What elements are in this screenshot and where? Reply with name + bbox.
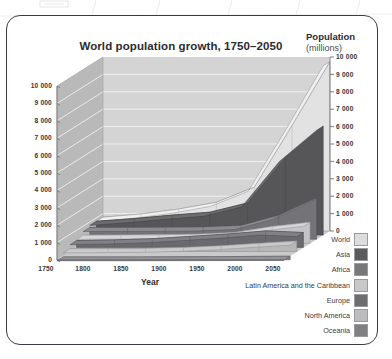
right-axis-tick-8000: 8 000 [336,88,354,95]
left-axis-tick-9000: 9 000 [8,99,52,106]
right-axis-tick-9000: 9 000 [336,71,354,78]
chart-legend: World Asia Africa Latin America and the … [196,232,368,338]
legend-item-asia[interactable]: Asia [196,247,368,262]
legend-item-oceania[interactable]: Oceania [196,323,368,338]
chart-title: World population growth, 1750–2050 [66,40,296,52]
right-axis-tick-6000: 6 000 [336,123,354,130]
right-axis-tick-1000: 1 000 [336,210,354,217]
right-axis-tick-3000: 3 000 [336,175,354,182]
left-axis-tick-0: 0 [8,256,52,263]
value-axis-title: Population [306,31,355,42]
left-axis-tick-1000: 1 000 [8,239,52,246]
legend-label-latin-america: Latin America and the Caribbean [245,281,354,290]
legend-item-europe[interactable]: Europe [196,293,368,308]
left-axis-tick-4000: 4 000 [8,186,52,193]
x-axis-tick-1800: 1800 [66,265,100,272]
legend-swatch-europe [354,294,368,307]
legend-label-oceania: Oceania [323,326,354,335]
legend-item-world[interactable]: World [196,232,368,247]
right-axis-tick-2000: 2 000 [336,192,354,199]
legend-label-asia: Asia [336,250,354,259]
left-axis-tick-2000: 2 000 [8,221,52,228]
legend-swatch-latin-america [354,279,368,292]
right-axis-tick-5000: 5 000 [336,140,354,147]
value-axis-subtitle: (millions) [306,43,342,53]
left-axis-tick-5000: 5 000 [8,169,52,176]
legend-label-europe: Europe [327,296,354,305]
left-axis-tick-7000: 7 000 [8,134,52,141]
left-axis-tick-10000: 10 000 [8,82,52,89]
legend-swatch-north-america [354,309,368,322]
legend-item-north-america[interactable]: North America [196,308,368,323]
left-axis-tick-6000: 6 000 [8,152,52,159]
right-axis-tick-7000: 7 000 [336,105,354,112]
chart-3d-area: World population growth, 1750–2050 Popul… [0,0,392,359]
legend-label-africa: Africa [332,265,354,274]
right-axis-tick-10000: 10 000 [336,53,357,60]
x-axis-title: Year [110,277,190,287]
x-axis-tick-1750: 1750 [29,265,63,272]
legend-swatch-oceania [354,324,368,337]
legend-label-north-america: North America [304,311,354,320]
legend-swatch-asia [354,248,368,261]
legend-item-latin-america[interactable]: Latin America and the Caribbean [196,278,368,293]
left-axis-tick-3000: 3 000 [8,204,52,211]
right-axis-tick-4000: 4 000 [336,158,354,165]
legend-swatch-world [354,233,368,246]
legend-item-africa[interactable]: Africa [196,262,368,277]
x-axis-tick-1900: 1900 [142,265,176,272]
left-axis-tick-8000: 8 000 [8,117,52,124]
legend-label-world: World [331,235,354,244]
x-axis-tick-1850: 1850 [104,265,138,272]
legend-swatch-africa [354,263,368,276]
